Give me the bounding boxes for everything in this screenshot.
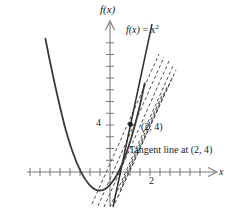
plot-canvas — [0, 0, 240, 210]
point-coordinate-label: (2, 4) — [141, 122, 163, 132]
y-axis-label: f(x) — [100, 4, 115, 15]
tangent-line-figure: f(x) x f(x) = x2 (2, 4) Tangent line at … — [0, 0, 240, 210]
x-tick-label-2: 2 — [149, 176, 154, 186]
y-tick-label-4: 4 — [96, 118, 101, 128]
secant-line-3 — [104, 61, 169, 207]
parabola-curve — [64, 83, 145, 190]
tangent-line — [113, 24, 152, 207]
function-equation-exponent: 2 — [156, 23, 160, 31]
tangent-line-annotation: Tangent line at (2, 4) — [129, 145, 212, 155]
function-equation-body: = x — [140, 24, 156, 35]
function-equation-label: f(x) = x2 — [126, 24, 159, 35]
parabola-left-branch-upper — [45, 39, 64, 124]
secant-line-4 — [110, 66, 173, 207]
x-axis-label: x — [219, 167, 223, 177]
axes-group — [27, 21, 217, 206]
function-equation-name: f(x) — [126, 24, 140, 35]
secant-line-6 — [118, 78, 172, 197]
point-marker-2-4 — [128, 122, 133, 127]
